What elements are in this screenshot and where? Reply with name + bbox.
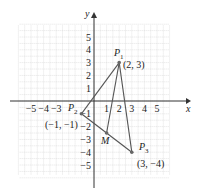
x-tick-label: 2 — [117, 103, 122, 114]
coord-label-p1: (2, 3) — [123, 59, 145, 71]
coordinate-diagram: xy −5−4−31234554321−1−2−3−4−5 P1(2, 3)P2… — [0, 0, 198, 192]
y-tick-label: 5 — [86, 32, 91, 43]
y-axis-arrow-icon — [91, 12, 97, 18]
x-tick-label: −4 — [38, 103, 49, 114]
point-marker — [130, 150, 134, 154]
y-tick-label: −3 — [80, 134, 91, 145]
x-tick-label: 5 — [155, 103, 160, 114]
y-tick-label: −5 — [80, 160, 91, 171]
y-tick-label: 1 — [86, 83, 91, 94]
y-axis-label: y — [84, 8, 90, 19]
x-tick-label: 4 — [142, 103, 147, 114]
y-tick-label: −4 — [80, 147, 91, 158]
y-tick-label: 2 — [86, 70, 91, 81]
point-label-p3: P3 — [138, 141, 149, 155]
x-tick-label: 1 — [104, 103, 109, 114]
y-tick-label: 3 — [86, 57, 91, 68]
x-tick-label: 3 — [129, 103, 134, 114]
point-label-m: M — [100, 135, 110, 146]
point-label-p2: P2 — [67, 102, 78, 116]
plot-canvas: xy −5−4−31234554321−1−2−3−4−5 P1(2, 3)P2… — [0, 0, 198, 192]
y-tick-label: 4 — [86, 44, 91, 55]
coord-label-p3: (3, −4) — [137, 158, 164, 170]
x-tick-label: −5 — [26, 103, 37, 114]
x-tick-label: −3 — [51, 103, 62, 114]
y-tick-label: −2 — [80, 121, 91, 132]
point-marker — [80, 112, 84, 116]
x-axis-label: x — [185, 103, 191, 114]
point-marker — [117, 61, 121, 65]
coord-label-p2: (−1, −1) — [45, 119, 78, 131]
